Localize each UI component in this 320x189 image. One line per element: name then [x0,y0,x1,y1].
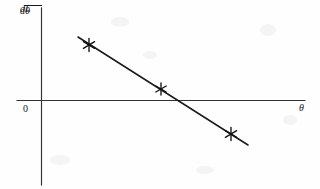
plot-canvas [0,0,320,189]
figure-root: dL dθ θ 0 [0,0,320,189]
y-axis-label: dL dθ [20,4,46,6]
data-point-marker [225,128,236,141]
x-axis-label: θ [299,103,304,113]
paper-noise [50,17,297,174]
best-fit-line [78,37,248,145]
y-axis-label-denominator: dθ [20,6,30,16]
origin-label: 0 [23,104,28,114]
data-point-marker [156,83,166,95]
data-point-marker [83,39,94,52]
